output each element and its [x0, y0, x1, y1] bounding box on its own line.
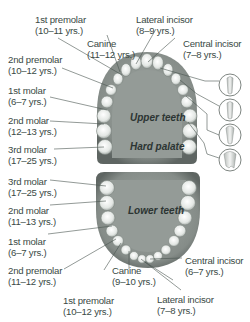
lower-jaw — [96, 172, 200, 268]
upper-canine-label: Canine(11–12 yrs.) — [87, 38, 135, 60]
upper-2nd-molar-label: 2nd molar(12–13 yrs.) — [8, 115, 57, 137]
lower-teeth-title: Lower teeth — [128, 205, 184, 216]
upper-1st-premolar-label: 1st premolar(10–11 yrs.) — [35, 14, 86, 36]
lower-2nd-molar-label: 2nd molar(11–13 yrs.) — [8, 205, 56, 227]
lower-central-incisor-label: Central incisor(6–7 yrs.) — [185, 255, 243, 277]
lower-1st-molar-label: 1st molar(6–7 yrs.) — [8, 236, 47, 258]
upper-2nd-premolar-label: 2nd premolar(10–12 yrs.) — [8, 54, 62, 76]
lower-canine-label: Canine(9–10 yrs.) — [112, 265, 156, 287]
tooth-profile-icons — [219, 74, 241, 171]
lower-lateral-incisor-label: Lateral incisor(7–8 yrs.) — [157, 294, 214, 316]
lower-3rd-molar-label: 3rd molar(17–25 yrs.) — [8, 176, 57, 198]
upper-3rd-molar-label: 3rd molar(17–25 yrs.) — [8, 144, 57, 166]
upper-1st-molar-label: 1st molar(6–7 yrs.) — [8, 85, 47, 107]
lower-1st-premolar-label: 1st premolar(10–12 yrs.) — [63, 295, 114, 317]
upper-lateral-incisor-label: Lateral incisor(8–9 yrs.) — [136, 14, 193, 36]
upper-teeth-title: Upper teeth — [130, 112, 186, 123]
hard-palate-label: Hard palate — [130, 141, 184, 152]
lower-2nd-premolar-label: 2nd premolar(11–12 yrs.) — [8, 265, 62, 287]
upper-central-incisor-label: Central incisor(7–8 yrs.) — [183, 38, 241, 60]
